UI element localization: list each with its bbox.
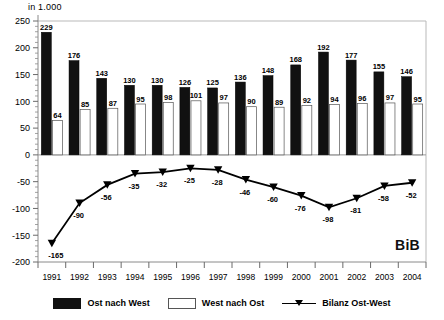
bar-value-label: 130 [123, 76, 136, 85]
bar-value-label: 64 [53, 111, 62, 120]
line-marker-triangle [297, 192, 305, 200]
bar-ost-nach-west [124, 85, 134, 155]
bar-value-label: 87 [109, 99, 117, 108]
bar-value-label: 97 [220, 93, 228, 102]
legend-label-bilanz-ost-west: Bilanz Ost-West [322, 298, 390, 308]
bar-value-label: 130 [151, 76, 164, 85]
bar-value-label: 98 [164, 93, 172, 102]
line-value-label: -165 [48, 251, 63, 260]
x-axis-tick-label: 1994 [126, 272, 145, 282]
line-value-label: -76 [295, 204, 306, 213]
y-axis-tick-label: 250 [15, 16, 30, 26]
bar-value-label: 168 [289, 55, 302, 64]
bar-ost-nach-west [346, 60, 356, 155]
bar-west-nach-ost [246, 107, 256, 155]
y-axis-tick-label: -50 [17, 177, 30, 187]
line-value-label: -32 [156, 180, 167, 189]
legend-label-ost-nach-west: Ost nach West [87, 298, 149, 308]
bar-west-nach-ost [163, 102, 173, 154]
y-axis-tick-label: 100 [15, 97, 30, 107]
y-axis-unit-label: in 1.000 [28, 2, 62, 12]
x-axis-tick-label: 2002 [347, 272, 366, 282]
white-square-icon [168, 298, 196, 309]
x-axis-tick-label: 1999 [264, 272, 283, 282]
bar-west-nach-ost [385, 103, 395, 155]
chart-legend: Ost nach West West nach Ost Bilanz Ost-W… [0, 292, 444, 314]
bar-west-nach-ost [80, 109, 90, 155]
legend-label-west-nach-ost: West nach Ost [202, 298, 264, 308]
x-axis-tick-label: 1991 [42, 272, 61, 282]
line-value-label: -98 [323, 215, 334, 224]
bar-ost-nach-west [263, 76, 273, 155]
bar-ost-nach-west [318, 52, 328, 155]
y-axis-tick-label: -100 [12, 204, 30, 214]
bar-value-label: 192 [317, 43, 330, 52]
line-value-label: -46 [239, 188, 250, 197]
y-axis-tick-label: -200 [12, 257, 30, 267]
bar-ost-nach-west [291, 65, 301, 155]
bar-ost-nach-west [402, 77, 412, 155]
bar-value-label: 148 [262, 66, 275, 75]
legend-item-west-nach-ost[interactable]: West nach Ost [168, 298, 264, 309]
chart-container: in 1.000 250200150100500-50-100-150-2001… [0, 0, 444, 320]
y-axis-tick-label: 150 [15, 70, 30, 80]
bar-ost-nach-west [374, 72, 384, 155]
line-marker-triangle [48, 240, 56, 248]
bar-value-label: 85 [81, 100, 89, 109]
chart-plot-area: 250200150100500-50-100-150-2001991199219… [0, 0, 444, 292]
bar-west-nach-ost [191, 101, 201, 155]
bar-value-label: 94 [330, 95, 339, 104]
bar-value-label: 90 [247, 97, 255, 106]
bar-west-nach-ost [108, 108, 118, 155]
bar-ost-nach-west [208, 88, 218, 155]
legend-item-ost-nach-west[interactable]: Ost nach West [53, 298, 149, 309]
bar-value-label: 143 [95, 69, 108, 78]
x-axis-tick-label: 2003 [375, 272, 394, 282]
bar-ost-nach-west [69, 61, 79, 155]
bar-west-nach-ost [302, 106, 312, 155]
bar-west-nach-ost [330, 105, 340, 155]
legend-item-bilanz-ost-west[interactable]: Bilanz Ost-West [282, 298, 390, 309]
bar-ost-nach-west [152, 85, 162, 155]
line-value-label: -81 [350, 206, 361, 215]
bar-value-label: 229 [40, 23, 53, 32]
bar-value-label: 95 [136, 95, 144, 104]
bar-west-nach-ost [136, 104, 146, 155]
bar-value-label: 126 [179, 78, 192, 87]
bar-west-nach-ost [357, 103, 367, 154]
x-axis-tick-label: 2000 [292, 272, 311, 282]
line-value-label: -52 [406, 191, 417, 200]
bar-ost-nach-west [97, 78, 107, 155]
y-axis-tick-label: 200 [15, 43, 30, 53]
watermark-bib: BiB [395, 237, 420, 253]
bar-ost-nach-west [41, 32, 51, 155]
x-axis-tick-label: 1995 [153, 272, 172, 282]
bar-west-nach-ost [219, 103, 229, 155]
line-value-label: -25 [184, 176, 195, 185]
bar-ost-nach-west [235, 82, 245, 155]
bar-west-nach-ost [413, 104, 423, 155]
bar-value-label: 155 [373, 62, 386, 71]
y-axis-tick-label: 50 [20, 123, 30, 133]
bar-value-label: 97 [386, 93, 394, 102]
x-axis-tick-label: 1992 [70, 272, 89, 282]
x-axis-tick-label: 2004 [403, 272, 422, 282]
bar-value-label: 146 [400, 67, 413, 76]
bar-west-nach-ost [274, 107, 284, 155]
bar-value-label: 96 [358, 94, 366, 103]
bar-value-label: 101 [190, 91, 203, 100]
line-value-label: -58 [378, 194, 389, 203]
bar-ost-nach-west [180, 87, 190, 154]
x-axis-tick-label: 2001 [320, 272, 339, 282]
bar-value-label: 125 [206, 78, 219, 87]
bar-west-nach-ost [52, 121, 62, 155]
x-axis-tick-label: 1998 [236, 272, 255, 282]
bar-value-label: 177 [345, 51, 358, 60]
bar-value-label: 136 [234, 73, 247, 82]
bar-value-label: 92 [303, 96, 311, 105]
y-axis-tick-label: 0 [25, 150, 30, 160]
line-value-label: -35 [129, 182, 140, 191]
line-marker-triangle [325, 204, 333, 212]
line-triangle-icon [282, 298, 316, 309]
line-value-label: -28 [212, 178, 223, 187]
